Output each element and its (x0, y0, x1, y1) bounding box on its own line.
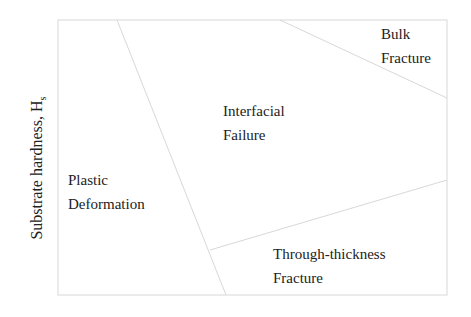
region-bulk-fracture: BulkFracture (381, 22, 431, 70)
region-through-thickness-fracture: Through-thicknessFracture (273, 242, 385, 290)
region-plastic-deformation: PlasticDeformation (68, 168, 145, 216)
through-thickness-boundary-line (210, 180, 447, 250)
y-axis-label: Substrate hardness, Hs (28, 68, 48, 268)
plastic-boundary-line (117, 20, 226, 295)
region-interfacial-failure: InterfacialFailure (223, 99, 285, 147)
